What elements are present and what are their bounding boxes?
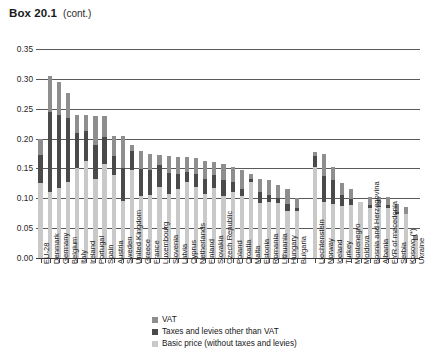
x-axis-label: Netherlands (199, 223, 207, 264)
bar-segment-other-taxes (313, 156, 317, 167)
x-axis-label: Czech Republic (226, 211, 234, 264)
bar-segment-other-taxes (176, 174, 180, 188)
x-axis-label: Albania (382, 239, 390, 264)
bar-segment-vat (194, 158, 198, 174)
bar-segment-other-taxes (157, 165, 161, 186)
legend-item[interactable]: Taxes and levies other than VAT (152, 326, 297, 337)
bar-segment-vat (285, 189, 289, 204)
legend-swatch-vat (152, 317, 158, 323)
x-axis-label: Austria (117, 240, 125, 264)
x-axis-label: Sweden (126, 237, 134, 264)
y-axis-tick-label: 0.20 (17, 134, 33, 144)
y-axis-tick-label: 0.00 (17, 253, 33, 263)
x-axis-label: Hungary (290, 235, 298, 264)
chart-container: 0.000.050.100.150.200.250.300.35 EU-28De… (0, 0, 425, 355)
bar-segment-other-taxes (340, 195, 344, 206)
bar-segment-other-taxes (112, 156, 116, 175)
bar-segment-other-taxes (331, 180, 335, 204)
x-axis-label: Norway (327, 238, 335, 264)
gridline (36, 79, 420, 80)
bar-segment-vat (48, 76, 52, 112)
y-axis-tick-label: 0.25 (17, 104, 33, 114)
bar-segment-other-taxes (240, 189, 244, 196)
bar-segment-vat (57, 82, 61, 115)
bar-segment-other-taxes (322, 176, 326, 202)
bar[interactable] (57, 82, 61, 258)
x-axis-label: Italy (80, 250, 88, 264)
x-axis-label: Germany (62, 233, 70, 264)
bar-segment-vat (66, 93, 70, 118)
x-axis-label: Latvia (181, 244, 189, 264)
gridline (36, 49, 420, 50)
bar-segment-other-taxes (185, 172, 189, 182)
y-axis-tick-label: 0.10 (17, 193, 33, 203)
bar-segment-other-taxes (130, 151, 134, 171)
bar-segment-other-taxes (57, 115, 61, 188)
x-axis-label: Portugal (98, 236, 106, 264)
y-axis-tick-label: 0.05 (17, 223, 33, 233)
x-axis-label: Bosnia and Herzegovina (373, 181, 381, 264)
x-axis-label: Croatia (245, 240, 253, 264)
bar-segment-other-taxes (66, 118, 70, 181)
bar-segment-other-taxes (48, 112, 52, 191)
legend-label: Taxes and levies other than VAT (162, 327, 279, 336)
y-axis-tick-label: 0.15 (17, 163, 33, 173)
x-axis-label: Slovenia (172, 235, 180, 264)
x-axis-tick (315, 259, 316, 263)
x-axis-label: EU-28 (43, 242, 51, 264)
bar-segment-other-taxes (231, 182, 235, 192)
bar-segment-vat (38, 139, 42, 155)
bar[interactable] (38, 139, 42, 258)
gridline (36, 109, 420, 110)
y-axis-tick-label: 0.30 (17, 74, 33, 84)
legend-label: VAT (162, 315, 177, 324)
bar-segment-other-taxes (295, 208, 299, 212)
x-axis-label: Ireland (89, 241, 97, 264)
x-axis-label: Slovakia (217, 235, 225, 264)
bar-segment-other-taxes (84, 131, 88, 161)
bar-segment-vat (167, 156, 171, 173)
bar-segment-vat (258, 179, 262, 192)
bar-segment-vat (240, 170, 244, 189)
y-axis-tick-label: 0.35 (17, 44, 33, 54)
bar-segment-other-taxes (148, 170, 152, 194)
x-axis-label: Poland (236, 240, 244, 264)
bar-segment-vat (102, 116, 106, 137)
x-axis-label: Belgium (71, 237, 79, 264)
bar-segment-vat (212, 162, 216, 175)
bar-segment-other-taxes (139, 169, 143, 196)
x-axis-label: Montenegro (354, 223, 362, 264)
bar-segment-other-taxes (285, 204, 289, 211)
bar[interactable] (48, 76, 52, 258)
bar-segment-vat (176, 157, 180, 174)
x-axis-label: Lithuania (281, 233, 289, 264)
bar-segment-other-taxes (249, 179, 253, 181)
x-axis-label: Estonia (263, 239, 271, 264)
x-axis-label: Cyprus (190, 240, 198, 264)
x-axis-label: Turkey (345, 241, 353, 264)
x-axis-label: Finland (208, 239, 216, 264)
bar-segment-vat (93, 116, 97, 145)
legend-label: Basic price (without taxes and levies) (162, 339, 297, 348)
legend-item[interactable]: Basic price (without taxes and levies) (152, 338, 297, 349)
bar[interactable] (84, 115, 88, 258)
legend-swatch-other (152, 329, 158, 335)
bar-segment-vat (185, 157, 189, 172)
bar-segment-vat (313, 152, 317, 156)
bar-segment-vat (295, 198, 299, 208)
legend-item[interactable]: VAT (152, 314, 297, 325)
bar-segment-other-taxes (258, 192, 262, 203)
x-axis-label: Bulgaria (300, 236, 308, 264)
bar-segment-other-taxes (194, 174, 198, 187)
bar-segment-other-taxes (167, 173, 171, 194)
bar-segment-vat (112, 136, 116, 156)
x-axis-label: Serbia (400, 242, 408, 264)
x-axis-label: Greece (144, 239, 152, 264)
x-axis-label: Spain (107, 245, 115, 264)
y-axis: 0.000.050.100.150.200.250.300.35 (0, 0, 33, 355)
bar-segment-vat (349, 189, 353, 199)
bar-segment-vat (221, 164, 225, 180)
bar-segment-vat (276, 185, 280, 198)
x-axis-label: Liechtenstein (318, 219, 326, 264)
x-axis-label: Moldova (363, 235, 371, 264)
